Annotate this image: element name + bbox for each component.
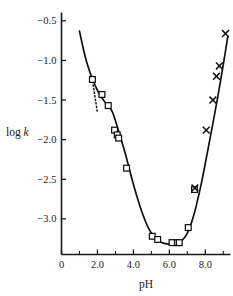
data-point-square — [124, 165, 130, 171]
data-point-square — [99, 92, 105, 98]
y-tick-label: −1.5 — [37, 95, 56, 106]
ph-rate-profile-figure: −0.5−1.0−1.5−2.0−2.5−3.002.04.06.08.0 pH… — [0, 0, 233, 296]
chart-svg: −0.5−1.0−1.5−2.0−2.5−3.002.04.06.08.0 pH… — [0, 0, 233, 296]
y-tick-label: −2.0 — [37, 134, 56, 145]
y-axis-title: log k — [6, 126, 30, 139]
data-point-square — [155, 237, 161, 243]
y-tick-label: −2.5 — [37, 174, 56, 185]
x-tick-label: 6.0 — [163, 259, 176, 270]
y-tick-label: −3.0 — [37, 213, 56, 224]
x-tick-label: 8.0 — [199, 259, 212, 270]
chart-background — [0, 0, 233, 296]
data-point-square — [90, 77, 96, 83]
x-tick-label: 0 — [59, 259, 64, 270]
data-point-square — [116, 135, 122, 141]
data-point-square — [105, 103, 111, 109]
y-tick-label: −1.0 — [37, 55, 56, 66]
data-point-square — [185, 225, 191, 231]
data-point-square — [176, 240, 182, 246]
x-tick-label: 4.0 — [127, 259, 140, 270]
y-tick-label: −0.5 — [37, 15, 56, 26]
x-tick-label: 2.0 — [91, 259, 104, 270]
x-axis-title: pH — [139, 278, 153, 291]
